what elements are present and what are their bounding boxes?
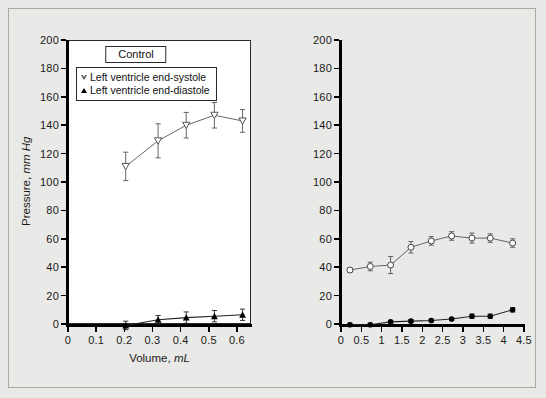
data-point [388,262,394,268]
data-point [367,263,373,269]
data-point [428,318,434,324]
series-layer-idcm [0,0,546,398]
data-point [388,319,394,325]
data-point [487,235,493,241]
data-point [408,318,414,324]
data-point [347,267,353,273]
data-point [428,238,434,244]
data-point [487,313,493,319]
data-point [408,244,414,250]
data-point [510,240,516,246]
data-point [510,307,516,313]
data-point [367,322,373,328]
data-point [449,233,455,239]
figure-canvas: Pressure, mm Hg Volume, mL Control Left … [0,0,546,398]
data-point [469,313,475,319]
data-point [469,235,475,241]
data-point [449,316,455,322]
data-point [347,322,353,328]
